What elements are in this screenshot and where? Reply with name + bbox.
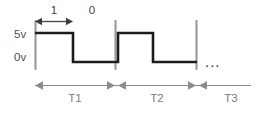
bit-width-measure [35,18,73,25]
t2-arrowhead-left [118,81,126,89]
bit-measure-arrowhead-right [66,18,73,25]
period-label-t2: T2 [150,92,163,104]
t1-arrowhead-left [35,81,43,89]
period-label-t3: T3 [224,92,237,104]
continuation-ellipsis: ... [205,53,221,70]
t1-arrowhead-right [107,81,115,89]
period-measure-t3 [199,81,251,89]
axis-label-low: 0v [14,51,26,63]
period-label-t1: T1 [68,92,81,104]
t2-arrowhead-right [188,81,196,89]
timing-diagram: 5v 0v 1 0 T1 T2 T3 ... [0,0,259,114]
period-measure-t1 [35,81,115,89]
t3-arrowhead-left [199,81,207,89]
bit-label-zero: 0 [89,4,95,16]
timing-diagram-canvas: 5v 0v 1 0 T1 T2 T3 ... [0,0,259,114]
axis-label-high: 5v [14,28,26,40]
bit-label-one: 1 [51,4,57,16]
period-measure-t2 [118,81,196,89]
